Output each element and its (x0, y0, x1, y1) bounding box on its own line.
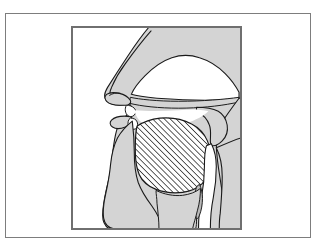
figure-panel (71, 26, 242, 230)
outer-frame (5, 13, 311, 238)
vocal-tract-sagittal-diagram (72, 27, 241, 229)
tongue (135, 118, 210, 193)
top-caption-text: — — — — — — (5, 0, 53, 3)
